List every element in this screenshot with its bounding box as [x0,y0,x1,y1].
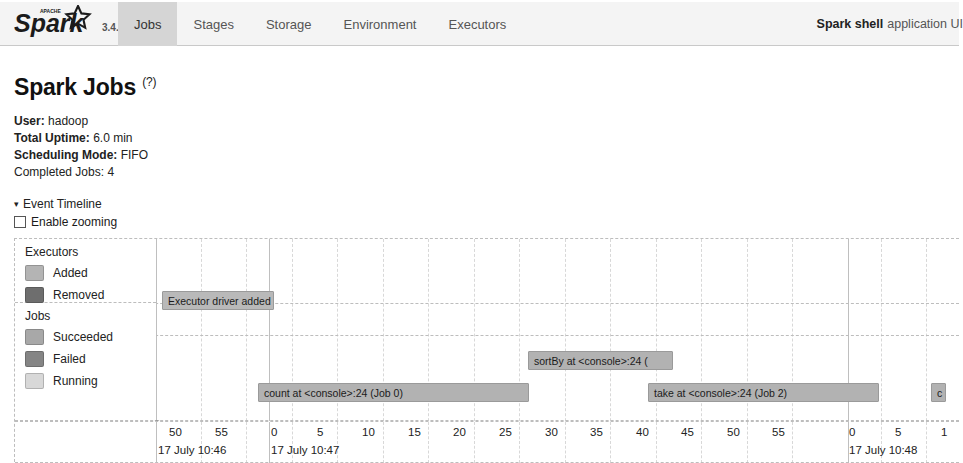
axis-tick-label: 0 [849,426,855,438]
axis-tick-label: 35 [590,426,603,438]
tab-jobs[interactable]: Jobs [118,2,177,46]
legend-swatch-running [25,373,44,389]
tab-executors[interactable]: Executors [432,2,522,46]
svg-text:APACHE: APACHE [40,8,61,14]
spark-logo-icon: Spark APACHE [14,5,98,39]
meta-uptime-label: Total Uptime: [14,131,90,145]
axis-group-label: 17 July 10:46 [158,444,226,456]
timeline-bar-label: c [932,387,942,399]
page-title-text: Spark Jobs [14,74,136,100]
meta-user-value: hadoop [48,114,88,128]
axis-tick-minor [881,422,882,463]
axis-tick-minor [337,422,338,463]
tab-stages[interactable]: Stages [177,2,249,46]
meta-completed-jobs: Completed Jobs: 4 [14,164,945,181]
meta-completed-jobs-value: 4 [107,165,114,179]
axis-tick-label: 0 [271,426,277,438]
timeline-bar-job-take[interactable]: take at <console>:24 (Job 2) [648,383,879,402]
axis-tick-minor [474,422,475,463]
legend-swatch-failed [25,351,44,367]
spark-logo[interactable]: Spark APACHE 3.4.2 [14,5,124,39]
nav-tabs: Jobs Stages Storage Environment Executor… [118,2,522,46]
legend-group-jobs: Jobs Succeeded Failed Running [15,303,156,399]
axis-tick-label: 1 [941,426,947,438]
axis-tick-label: 30 [545,426,558,438]
axis-tick-minor [201,422,202,463]
axis-tick-minor [610,422,611,463]
axis-tick-minor [292,422,293,463]
page-title: Spark Jobs (?) [14,74,945,101]
meta-user-label: User: [14,114,45,128]
legend-label-removed: Removed [53,288,104,302]
timeline-bar-job-sortby[interactable]: sortBy at <console>:24 ( [528,351,673,370]
axis-tick-major [156,422,157,463]
legend-swatch-succeeded [25,329,44,345]
legend-item-succeeded[interactable]: Succeeded [23,326,156,348]
axis-tick-minor [792,422,793,463]
meta-user: User: hadoop [14,113,945,130]
timeline-bar-job-partial-right[interactable]: c [931,383,946,402]
timeline-axis: 5055017 July 10:475101520253035404550550… [15,421,959,463]
axis-tick-label: 15 [408,426,421,438]
application-ui-suffix: application UI [887,17,963,31]
tab-environment[interactable]: Environment [328,2,433,46]
timeline-bar-label: sortBy at <console>:24 ( [529,355,648,367]
legend-label-running: Running [53,374,98,388]
axis-tick-label: 50 [727,426,740,438]
axis-tick-label: 10 [362,426,375,438]
timeline-row-divider [15,335,959,336]
timeline-bar-label: Executor driver added [163,295,271,307]
axis-tick-minor [565,422,566,463]
event-timeline-label: Event Timeline [23,197,102,211]
legend-group-jobs-title: Jobs [25,309,156,323]
timeline-legend: Executors Added Removed Jobs Succeeded [15,239,156,399]
event-timeline-chart[interactable]: Executors Added Removed Jobs Succeeded [14,238,959,462]
legend-label-succeeded: Succeeded [53,330,113,344]
timeline-row-divider [15,303,959,304]
legend-item-running[interactable]: Running [23,370,156,392]
axis-tick-minor [747,422,748,463]
meta-scheduling-mode: Scheduling Mode: FIFO [14,147,945,164]
axis-tick-minor [926,422,927,463]
top-navbar: Spark APACHE 3.4.2 Jobs Stages Storage E… [0,2,959,46]
meta-scheduling-mode-value: FIFO [121,148,148,162]
application-ui-title: Spark shell application UI [817,2,963,46]
chevron-down-icon: ▾ [14,199,19,209]
timeline-bar-job-count[interactable]: count at <console>:24 (Job 0) [258,383,529,402]
legend-label-added: Added [53,266,88,280]
meta-scheduling-mode-label: Scheduling Mode: [14,148,117,162]
axis-tick-label: 50 [169,426,182,438]
legend-swatch-added [25,265,44,281]
axis-tick-label: 45 [681,426,694,438]
legend-swatch-removed [25,287,44,303]
timeline-bar-executor-driver-added[interactable]: Executor driver added [162,291,274,310]
axis-tick-minor [519,422,520,463]
legend-item-added[interactable]: Added [23,262,156,284]
application-name: Spark shell [817,17,884,31]
axis-tick-major [269,422,270,463]
axis-tick-label: 55 [215,426,228,438]
help-icon[interactable]: (?) [142,75,156,89]
legend-group-executors: Executors Added Removed [15,239,156,303]
event-timeline-toggle[interactable]: ▾Event Timeline [14,197,945,211]
meta-uptime-value: 6.0 min [93,131,132,145]
enable-zooming-checkbox[interactable] [14,216,26,228]
enable-zooming-label: Enable zooming [31,215,117,229]
timeline-bar-label: count at <console>:24 (Job 0) [259,387,403,399]
axis-tick-label: 55 [772,426,785,438]
legend-item-failed[interactable]: Failed [23,348,156,370]
axis-tick-minor [428,422,429,463]
axis-tick-minor [656,422,657,463]
axis-tick-label: 5 [317,426,323,438]
enable-zooming-row[interactable]: Enable zooming [14,215,945,229]
legend-group-executors-title: Executors [25,245,156,259]
timeline-bar-label: take at <console>:24 (Job 2) [649,387,787,399]
tab-storage[interactable]: Storage [250,2,328,46]
axis-tick-label: 25 [499,426,512,438]
meta-uptime: Total Uptime: 6.0 min [14,130,945,147]
axis-tick-minor [383,422,384,463]
axis-group-label: 17 July 10:47 [271,444,339,456]
axis-group-label: 17 July 10:48 [849,444,917,456]
axis-tick-label: 20 [453,426,466,438]
page-content: Spark Jobs (?) User: hadoop Total Uptime… [14,60,945,229]
